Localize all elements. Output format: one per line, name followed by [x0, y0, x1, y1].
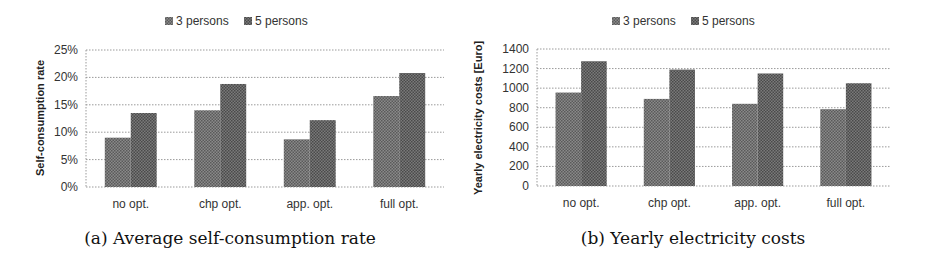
y-tick-label: 1000 [502, 81, 529, 95]
chart-self-consumption-rate: 3 persons 5 persons Self-consumption rat… [34, 14, 444, 248]
legend-swatch-5-persons [691, 17, 699, 25]
bar-5-persons-1 [220, 84, 246, 187]
legend: 3 persons 5 persons [612, 14, 755, 28]
bar-5-persons-0 [581, 61, 607, 186]
caption: (a) Average self-consumption rate [84, 228, 376, 248]
legend-label-3-persons: 3 persons [176, 14, 229, 28]
bar-5-persons-3 [846, 83, 872, 186]
bar-3-persons-1 [644, 99, 670, 186]
bar-5-persons-2 [310, 120, 336, 187]
x-tick-label: full opt. [380, 197, 419, 211]
y-tick-label: 5% [61, 153, 79, 167]
legend-label-5-persons: 5 persons [255, 14, 308, 28]
bar-5-persons-2 [758, 73, 784, 186]
y-tick-label: 10% [54, 125, 78, 139]
bar-5-persons-0 [131, 113, 157, 187]
bar-3-persons-1 [194, 110, 220, 187]
bar-3-persons-3 [373, 96, 399, 187]
y-tick-labels: 0200400600800100012001400 [502, 42, 529, 193]
legend-swatch-3-persons [165, 17, 173, 25]
y-tick-label: 20% [54, 70, 78, 84]
bar-5-persons-3 [399, 73, 425, 187]
y-tick-label: 1400 [502, 42, 529, 56]
bar-3-persons-2 [732, 104, 758, 186]
x-tick-label: no opt. [563, 196, 600, 210]
y-tick-label: 800 [509, 101, 529, 115]
chart-yearly-electricity-costs: 3 persons 5 persons Yearly electricity c… [472, 14, 890, 248]
x-tick-label: app. opt. [286, 197, 333, 211]
caption: (b) Yearly electricity costs [581, 228, 805, 248]
bar-3-persons-2 [284, 139, 310, 187]
figure: 3 persons 5 persons Self-consumption rat… [0, 0, 926, 270]
bars [105, 73, 425, 187]
bar-3-persons-0 [556, 93, 582, 186]
y-axis-title: Self-consumption rate [34, 60, 46, 176]
y-tick-label: 200 [509, 159, 529, 173]
y-tick-label: 15% [54, 98, 78, 112]
x-tick-labels: no opt.chp opt.app. opt.full opt. [112, 197, 418, 211]
bar-3-persons-3 [820, 109, 846, 186]
y-tick-labels: 0%5%10%15%20%25% [54, 43, 78, 194]
x-tick-label: full opt. [827, 196, 866, 210]
x-tick-label: chp opt. [199, 197, 242, 211]
y-tick-label: 25% [54, 43, 78, 57]
y-tick-label: 0 [522, 179, 529, 193]
bars [556, 61, 872, 186]
y-tick-label: 0% [61, 180, 79, 194]
bar-5-persons-1 [669, 70, 695, 186]
x-tick-labels: no opt.chp opt.app. opt.full opt. [563, 196, 865, 210]
bar-3-persons-0 [105, 138, 131, 187]
legend: 3 persons 5 persons [165, 14, 308, 28]
y-tick-label: 400 [509, 140, 529, 154]
y-tick-label: 1200 [502, 62, 529, 76]
x-tick-label: no opt. [112, 197, 149, 211]
legend-swatch-5-persons [244, 17, 252, 25]
legend-label-5-persons: 5 persons [702, 14, 755, 28]
x-tick-label: chp opt. [648, 196, 691, 210]
legend-swatch-3-persons [612, 17, 620, 25]
legend-label-3-persons: 3 persons [623, 14, 676, 28]
y-axis-title: Yearly electricity costs [Euro] [472, 41, 484, 195]
x-tick-label: app. opt. [734, 196, 781, 210]
y-tick-label: 600 [509, 120, 529, 134]
